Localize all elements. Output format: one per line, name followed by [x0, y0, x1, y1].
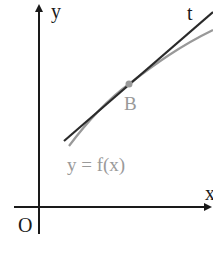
tangent-diagram: y x O t B y = f(x)	[0, 0, 213, 257]
x-axis-label: x	[205, 182, 213, 204]
point-b	[126, 81, 133, 88]
origin-label: O	[18, 214, 32, 236]
tangent-line	[64, 12, 213, 141]
y-axis-label: y	[51, 0, 61, 23]
curve-f	[69, 30, 213, 146]
point-b-label: B	[124, 93, 137, 114]
tangent-label: t	[187, 2, 193, 24]
curve-label: y = f(x)	[67, 154, 125, 176]
